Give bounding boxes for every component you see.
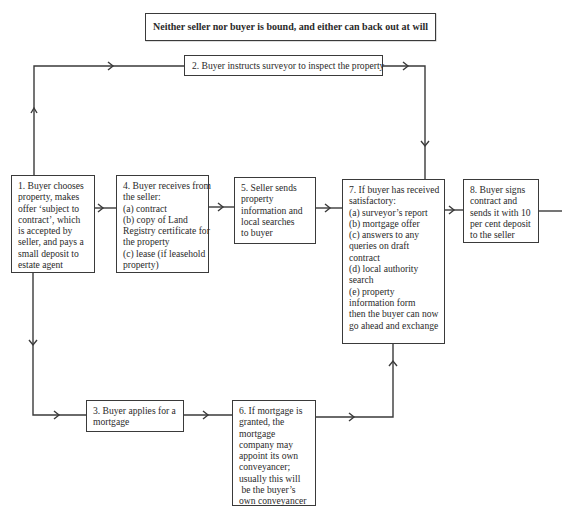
step-7-line: contract — [349, 252, 439, 263]
step-8-line: 8. Buyer signs — [470, 184, 533, 195]
step-3-line: 3. Buyer applies for a — [93, 405, 178, 416]
step-4-line: 4. Buyer receives from — [123, 180, 203, 191]
step-6-line: granted, the — [239, 416, 310, 427]
step-4-line: the seller: — [123, 191, 203, 202]
step-4-line: (b) copy of Land — [123, 214, 203, 225]
step-5-box: 5. Seller sends property information and… — [234, 177, 316, 244]
step-1-line: seller, and pays a — [18, 236, 89, 247]
step-7-line: 7. If buyer has received — [349, 184, 439, 195]
step-4-line: (a) contract — [123, 203, 203, 214]
step-1-line: is accepted by — [18, 225, 89, 236]
step-1-line: estate agent — [18, 259, 89, 270]
step-7-line: search — [349, 274, 439, 285]
step-7-line: then the buyer can now — [349, 308, 439, 319]
connector-1-to-3 — [33, 272, 86, 415]
step-7-line: queries on draft — [349, 240, 439, 251]
step-2-line: 2. Buyer instructs surveyor to inspect t… — [192, 60, 377, 71]
step-7-line: (e) property — [349, 286, 439, 297]
step-7-box: 7. If buyer has received satisfactory: (… — [342, 179, 445, 344]
step-5-line: information and — [241, 205, 310, 216]
step-6-line: mortgage — [239, 428, 310, 439]
step-6-box: 6. If mortgage is granted, the mortgage … — [232, 400, 316, 506]
step-1-line: contract’, which — [18, 214, 89, 225]
step-7-line: go ahead and exchange — [349, 320, 439, 331]
step-5-line: property — [241, 193, 310, 204]
step-8-line: contract and — [470, 195, 533, 206]
connector-6-to-7 — [315, 343, 393, 417]
connector-2-to-7 — [383, 66, 425, 179]
step-1-line: 1. Buyer chooses — [18, 180, 89, 191]
step-4-line: property) — [123, 259, 203, 270]
step-8-line: sends it with 10 — [470, 207, 533, 218]
step-4-line: (c) lease (if leasehold — [123, 248, 203, 259]
step-7-line: (b) mortgage offer — [349, 218, 439, 229]
step-3-box: 3. Buyer applies for a mortgage — [86, 400, 184, 432]
step-6-line: 6. If mortgage is — [239, 405, 310, 416]
step-7-line: (a) surveyor’s report — [349, 207, 439, 218]
step-7-line: information form — [349, 297, 439, 308]
step-3-line: mortgage — [93, 416, 178, 427]
step-6-line: company may — [239, 439, 310, 450]
step-6-line: own conveyancer — [239, 495, 310, 506]
step-4-line: the property — [123, 236, 203, 247]
step-7-line: (c) answers to any — [349, 229, 439, 240]
header-text: Neither seller nor buyer is bound, and e… — [153, 21, 428, 32]
step-4-line: Registry certificate for — [123, 225, 203, 236]
step-6-line: conveyancer; — [239, 461, 310, 472]
step-7-line: satisfactory: — [349, 195, 439, 206]
step-7-line: (d) local authority — [349, 263, 439, 274]
step-1-line: small deposit to — [18, 248, 89, 259]
step-1-line: offer ‘subject to — [18, 203, 89, 214]
step-8-line: per cent deposit — [470, 218, 533, 229]
step-6-line: be the buyer’s — [239, 484, 310, 495]
step-4-box: 4. Buyer receives from the seller: (a) c… — [116, 175, 209, 273]
step-1-box: 1. Buyer chooses property, makes offer ‘… — [11, 175, 95, 273]
step-2-box: 2. Buyer instructs surveyor to inspect t… — [184, 55, 383, 76]
step-6-line: appoint its own — [239, 450, 310, 461]
step-5-line: to buyer — [241, 227, 310, 238]
step-8-box: 8. Buyer signs contract and sends it wit… — [463, 179, 539, 243]
step-1-line: property, makes — [18, 191, 89, 202]
step-8-line: to the seller — [470, 229, 533, 240]
step-5-line: 5. Seller sends — [241, 182, 310, 193]
header-banner: Neither seller nor buyer is bound, and e… — [145, 13, 436, 41]
step-5-line: local searches — [241, 216, 310, 227]
connector-1-to-2 — [34, 66, 184, 175]
step-6-line: usually this will — [239, 473, 310, 484]
